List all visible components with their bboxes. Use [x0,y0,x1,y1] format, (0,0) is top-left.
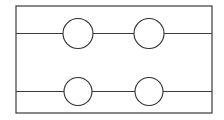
circle-top-right [134,19,164,49]
circle-top-left [63,19,93,49]
outer-rectangle [16,6,212,113]
diagram-canvas [0,0,224,120]
circle-bottom-left [64,78,92,106]
diagram-svg [0,0,224,120]
circle-bottom-right [135,78,163,106]
